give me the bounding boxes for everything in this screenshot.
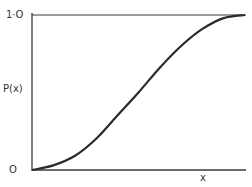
chart-plot bbox=[0, 0, 252, 187]
x-axis-label: x bbox=[200, 173, 206, 183]
y-axis-label: P(x) bbox=[3, 84, 23, 94]
origin-label: O bbox=[9, 165, 17, 175]
data-curve bbox=[32, 15, 245, 170]
y-tick-label-top: 1·O bbox=[6, 10, 23, 20]
